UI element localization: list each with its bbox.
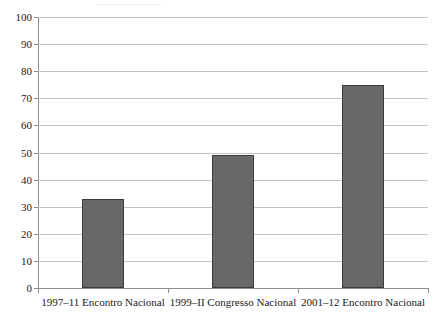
bar-2 [212,155,254,288]
x-tick-separator-2 [298,288,299,293]
y-tick-10 [34,261,38,262]
y-tick-50 [34,153,38,154]
y-tick-70 [34,98,38,99]
y-tick-label-10: 10 [21,256,32,267]
y-tick-20 [34,234,38,235]
x-axis-label-3: 2001–12 Encontro Nacional [301,296,425,309]
y-tick-100 [34,17,38,18]
y-tick-label-100: 100 [16,12,33,23]
bar-3 [342,85,384,288]
gridline-0: 0 [38,288,428,289]
cropped-caption-artifact: ....................................... [96,1,396,6]
bar-1 [82,199,124,288]
y-tick-label-70: 70 [21,93,32,104]
y-tick-90 [34,44,38,45]
y-tick-60 [34,125,38,126]
x-tick-separator-1 [168,288,169,293]
y-tick-label-50: 50 [21,148,32,159]
y-tick-40 [34,180,38,181]
y-tick-label-30: 30 [21,202,32,213]
y-tick-30 [34,207,38,208]
y-tick-label-40: 40 [21,175,32,186]
gridline-100: 100 [38,17,428,18]
y-tick-label-20: 20 [21,229,32,240]
x-tick-edge-right [428,288,429,293]
bar-chart: ....................................... … [0,0,440,318]
x-axis-label-1: 1997–11 Encontro Nacional [41,296,165,309]
x-axis-label-2: 1999–II Congresso Nacional [170,296,296,309]
gridline-80: 80 [38,71,428,72]
y-tick-label-60: 60 [21,120,32,131]
y-tick-label-80: 80 [21,66,32,77]
x-tick-edge-left [38,288,39,293]
plot-area: 01020304050607080901001997–11 Encontro N… [38,17,428,288]
y-tick-label-0: 0 [27,283,33,294]
gridline-90: 90 [38,44,428,45]
y-tick-label-90: 90 [21,39,32,50]
y-tick-80 [34,71,38,72]
